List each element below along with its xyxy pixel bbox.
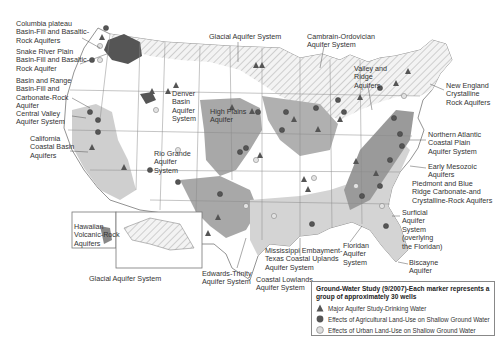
label-california-coastal: California Coastal Basin Aquifers [30, 135, 74, 160]
label-valley-ridge: Valley and Ridge Aquifers [354, 65, 387, 90]
label-edwards-trinity: Edwards-Trinity Aquifer System [202, 270, 252, 287]
map-legend: Ground-Water Study (9/2007)-Each marker … [311, 281, 495, 336]
label-cambrian-ordovician: Cambrain-Ordovician Aquifer System [307, 33, 375, 50]
legend-item-agricultural: Effects of Agricultural Land-Use on Shal… [316, 315, 490, 323]
light-circle-icon [316, 326, 324, 334]
legend-label: Effects of Agricultural Land-Use on Shal… [328, 316, 490, 323]
label-mississippi-embayment: Mississippi Embayment- Texas Coastal Upl… [265, 247, 342, 272]
legend-item-urban: Effects of Urban Land-Use on Shallow Gro… [316, 326, 490, 334]
legend-label: Major Aquifer Study-Drinking Water [328, 305, 426, 312]
label-rio-grande: Rio Grande Aquifer System [154, 150, 191, 175]
label-central-valley: Central Valley Aquifer System [16, 110, 65, 127]
label-new-england: New England Crystalline Rock Aquifers [446, 82, 490, 107]
legend-title: Ground-Water Study (9/2007)-Each marker … [316, 285, 490, 301]
label-surficial: Surficial Aquifer System (overlying the … [402, 209, 442, 251]
legend-label: Effects of Urban Land-Use on Shallow Gro… [328, 327, 476, 334]
label-glacial-alaska: Glacial Aquifer System [89, 275, 161, 283]
label-denver-basin: Denver Basin Aquifer System [172, 90, 196, 124]
label-coastal-lowlands: Coastal Lowlands Aquifer System [256, 276, 313, 293]
label-piedmont-blue-ridge: Piedmont and Blue Ridge Carbonate-and Cr… [412, 180, 492, 205]
triangle-icon [316, 304, 324, 312]
label-early-mesozoic: Early Mesozoic Aquifers [428, 163, 477, 180]
label-basin-range: Basin and Range Basin-Fill and Carbonate… [16, 77, 71, 111]
label-northern-atlantic: Northern Atlantic Coastal Plain Aquifer … [428, 131, 481, 156]
label-high-plains: High Plains Aquifer [210, 108, 246, 125]
label-columbia-plateau: Columbia plateau Basin-Fill and Basaltic… [16, 20, 89, 45]
label-hawaiian: Hawaiian Volcanic-Rock Aquifers [74, 223, 120, 248]
dark-circle-icon [316, 315, 324, 323]
label-biscayne: Biscayne Aquifer [409, 259, 438, 276]
label-floridan: Floridan Aquifer System [343, 242, 369, 267]
label-glacial-north: Glacial Aquifer System [209, 33, 281, 41]
label-snake-river: Snake River Plain Basin-Fill and Basalti… [16, 48, 89, 73]
legend-item-drinking-water: Major Aquifer Study-Drinking Water [316, 304, 490, 312]
